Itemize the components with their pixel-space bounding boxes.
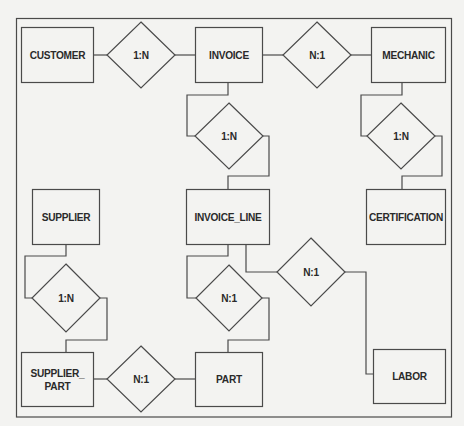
relationship-label-invoiceline-labor: N:1: [285, 262, 338, 282]
connector: [246, 244, 277, 272]
entity-mechanic: MECHANIC: [376, 27, 442, 83]
entity-supplier: SUPPLIER: [36, 189, 96, 245]
connector: [345, 272, 373, 374]
entity-invoice: INVOICE: [199, 27, 259, 83]
entity-invoice-line: INVOICE_LINE: [191, 189, 265, 245]
relationship-label-invoiceline-part: N:1: [203, 288, 256, 308]
relationship-label-customer-invoice: 1:N: [115, 45, 168, 65]
relationship-label-mechanic-certification: 1:N: [375, 126, 428, 146]
entity-labor: LABOR: [377, 349, 441, 404]
relationship-label-supplierpart-part: N:1: [115, 369, 168, 389]
entity-supplier-part: SUPPLIER_ PART: [25, 352, 89, 407]
entity-part: PART: [199, 352, 259, 407]
relationship-label-supplier-supplierpart: 1:N: [40, 288, 93, 308]
entity-customer: CUSTOMER: [25, 27, 89, 83]
relationship-label-invoice-mechanic: N:1: [291, 45, 344, 65]
relationship-label-invoice-invoiceline: 1:N: [203, 126, 256, 146]
entity-certification: CERTIFICATION: [371, 189, 441, 245]
